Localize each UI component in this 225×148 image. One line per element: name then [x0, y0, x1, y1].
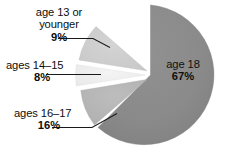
pie-label-ages1415: ages 14–15 8%: [6, 59, 98, 84]
pie-label-age18-percent: 67%: [154, 70, 212, 82]
pie-label-ages1415-line1: ages 14–15: [6, 59, 98, 71]
pie-chart-figure: age 13 or younger 9% ages 14–15 8% ages …: [0, 0, 225, 148]
pie-label-ages1617: ages 16–17 16%: [14, 107, 106, 132]
pie-label-age13: age 13 or younger 9%: [17, 6, 101, 43]
pie-label-age13-line2: younger: [17, 18, 101, 30]
pie-label-ages1617-line1: ages 16–17: [14, 107, 106, 119]
pie-label-age18: age 18 67%: [154, 58, 212, 83]
pie-label-ages1415-percent: 8%: [6, 71, 78, 83]
pie-label-age18-line1: age 18: [154, 58, 212, 70]
pie-label-age13-percent: 9%: [17, 31, 101, 43]
pie-label-age13-line1: age 13 or: [17, 6, 101, 18]
pie-label-ages1617-percent: 16%: [14, 119, 84, 131]
